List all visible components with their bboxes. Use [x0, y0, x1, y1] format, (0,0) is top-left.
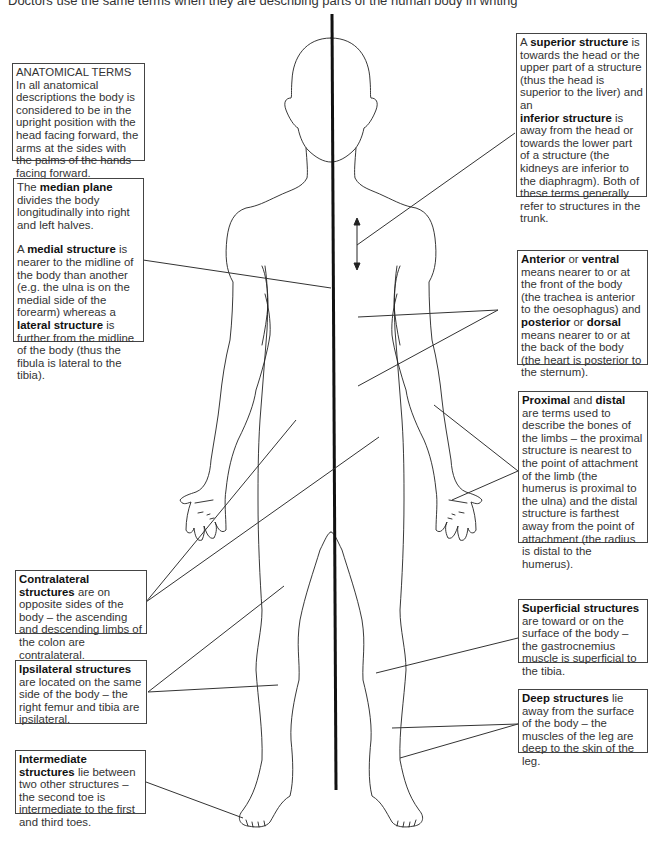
term-medial-structure: medial structure — [27, 243, 116, 255]
ipsilateral-box: Ipsilateral structures are located on th… — [15, 660, 147, 724]
anatomical-terms-text: In all anatomical descriptions the body … — [16, 79, 141, 180]
term-inferior-structure: inferior structure — [520, 112, 612, 124]
term-anterior: Anterior — [521, 253, 565, 265]
term-dorsal: dorsal — [587, 316, 621, 328]
leader-lines — [143, 133, 518, 818]
superior-inferior-box: A superior structure is towards the head… — [516, 33, 647, 197]
median-plane-line — [332, 14, 336, 790]
right-torso-side — [331, 266, 423, 827]
superficial-box: Superficial structures are toward or on … — [518, 599, 648, 663]
deep-box: Deep structures lie away from the surfac… — [518, 689, 648, 753]
term-superior-structure: superior structure — [530, 36, 628, 48]
term-distal: distal — [595, 394, 625, 406]
anatomical-terms-box: ANATOMICAL TERMS In all anatomical descr… — [12, 63, 145, 161]
medial-lateral-paragraph: A medial structure is nearer to the midl… — [17, 243, 140, 382]
term-proximal: Proximal — [522, 394, 570, 406]
proximal-distal-box: Proximal and distal are terms used to de… — [518, 391, 648, 543]
term-median-plane: median plane — [40, 181, 113, 193]
term-posterior: posterior — [521, 316, 570, 328]
term-ipsilateral: Ipsilateral structures — [19, 663, 131, 675]
median-plane-box: The median plane divides the body longit… — [13, 178, 144, 342]
median-plane-paragraph: The median plane divides the body longit… — [17, 181, 140, 231]
contralateral-box: Contralateral structures are on opposite… — [15, 570, 147, 634]
right-body-outline — [355, 148, 482, 540]
intermediate-box: Intermediate structures lie between two … — [15, 750, 146, 814]
term-deep: Deep structures — [522, 692, 609, 704]
left-body-outline — [180, 148, 307, 540]
term-superficial: Superficial structures — [522, 602, 639, 614]
anterior-posterior-box: Anterior or ventral means nearer to or a… — [517, 250, 648, 365]
left-torso-side — [239, 266, 331, 827]
term-ventral: ventral — [582, 253, 619, 265]
term-lateral-structure: lateral structure — [17, 319, 103, 331]
anatomical-terms-title: ANATOMICAL TERMS — [16, 66, 141, 79]
